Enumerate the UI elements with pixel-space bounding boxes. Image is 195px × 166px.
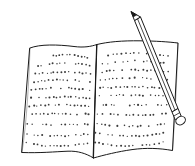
text-dot [33, 143, 35, 145]
text-dot [68, 87, 70, 89]
text-dot [150, 94, 152, 96]
text-dot [128, 145, 130, 147]
text-dot [78, 63, 80, 65]
text-dot [109, 69, 111, 71]
text-dot [137, 104, 139, 106]
text-dot [112, 78, 114, 80]
text-dot [78, 88, 80, 90]
text-dot [120, 145, 122, 147]
text-dot [167, 55, 169, 57]
right-page [94, 41, 179, 158]
text-dot [107, 144, 108, 145]
text-dot [164, 123, 165, 124]
text-dot [149, 114, 151, 116]
text-dot [59, 79, 60, 80]
text-dot [31, 124, 32, 125]
text-dot [35, 88, 37, 90]
text-dot [159, 133, 161, 135]
text-dot [105, 104, 107, 106]
text-dot [167, 71, 169, 73]
text-dot [39, 73, 40, 74]
text-dot [163, 62, 165, 64]
text-dot [40, 113, 41, 114]
text-dot [151, 134, 153, 136]
text-dot [41, 80, 42, 81]
text-dot [124, 125, 126, 127]
text-dot [30, 97, 32, 99]
text-dot [52, 55, 54, 57]
text-dot [44, 80, 46, 82]
text-dot [99, 95, 100, 96]
text-dot [127, 61, 128, 62]
text-dot [110, 95, 111, 96]
text-dot [68, 135, 69, 136]
text-dot [83, 133, 85, 135]
text-dot [84, 105, 86, 107]
text-dot [120, 53, 122, 55]
text-dot [160, 123, 162, 125]
text-dot [158, 87, 160, 89]
text-dot [141, 105, 142, 106]
text-dot [146, 144, 148, 146]
text-dot [129, 77, 131, 79]
text-dot [89, 90, 90, 91]
text-dot [134, 86, 136, 88]
text-dot [150, 78, 152, 80]
text-dot [52, 71, 54, 73]
text-dot [134, 77, 136, 79]
text-dot [102, 87, 103, 88]
text-dot [34, 134, 35, 135]
text-dot [129, 114, 130, 115]
text-dot [74, 72, 76, 74]
text-dot [57, 135, 59, 137]
text-dot [74, 88, 76, 90]
text-dot [55, 104, 56, 105]
text-dot [155, 133, 157, 135]
text-dot [94, 141, 96, 143]
text-dot [142, 86, 144, 88]
text-dot [131, 135, 133, 137]
text-dot [37, 81, 39, 83]
illustration-canvas: Open book with pencil Line drawing of an… [0, 0, 195, 166]
text-dot [31, 113, 33, 115]
text-dot [146, 70, 148, 72]
text-dot [150, 69, 152, 71]
text-dot [59, 62, 60, 63]
text-dot [143, 135, 145, 137]
text-dot [58, 104, 60, 106]
text-dot [36, 105, 37, 106]
text-dot [119, 135, 121, 137]
text-dot [39, 88, 41, 90]
text-dot [47, 113, 49, 115]
text-dot [61, 124, 63, 126]
text-dot [40, 104, 42, 106]
text-dot [122, 61, 123, 62]
text-dot [37, 144, 39, 146]
text-dot [40, 65, 41, 66]
text-dot [111, 144, 113, 146]
text-dot [67, 145, 69, 147]
text-dot [85, 72, 87, 74]
text-dot [104, 124, 106, 126]
text-dot [30, 89, 32, 91]
text-dot [155, 95, 156, 96]
text-dot [143, 61, 145, 63]
open-book-with-pencil-illustration: Line drawing of an open book with dotted… [0, 0, 195, 166]
text-dot [135, 94, 137, 96]
text-dot [45, 123, 47, 125]
text-dot [154, 87, 156, 89]
text-dot [50, 87, 52, 89]
text-dot [68, 71, 69, 72]
text-dot [121, 69, 123, 71]
text-dot [107, 134, 108, 135]
text-dot [158, 143, 160, 145]
text-dot [64, 123, 66, 125]
text-dot [58, 113, 59, 114]
text-dot [114, 61, 116, 63]
text-dot [83, 143, 84, 144]
text-dot [122, 135, 124, 137]
text-dot [96, 123, 97, 124]
text-dot [134, 69, 136, 71]
text-dot [57, 71, 59, 73]
text-dot [55, 55, 57, 57]
